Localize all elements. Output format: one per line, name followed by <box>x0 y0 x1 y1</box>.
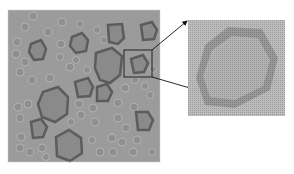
micrograph-figure <box>0 0 294 174</box>
main-micrograph <box>8 10 160 162</box>
inset-magnified-image <box>188 20 285 116</box>
